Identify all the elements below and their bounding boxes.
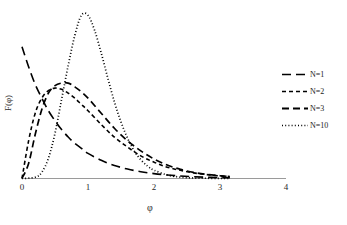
legend-label-n2: N=2	[310, 87, 324, 96]
curve-group	[22, 13, 230, 178]
x-tick-label-3: 3	[210, 182, 230, 192]
legend-swatch-n10	[282, 121, 308, 130]
curve-n1	[22, 47, 230, 178]
legend-label-n1: N=1	[310, 70, 324, 79]
y-axis-title: F(φ)	[3, 80, 13, 126]
legend-item-n10: N=10	[282, 117, 346, 134]
chart-legend: N=1 N=2 N=3 N=10	[282, 66, 346, 134]
x-tick-label-2: 2	[144, 182, 164, 192]
legend-label-n10: N=10	[310, 121, 328, 130]
legend-item-n1: N=1	[282, 66, 346, 83]
x-tick-label-4: 4	[276, 182, 296, 192]
legend-swatch-n3	[282, 104, 308, 113]
curve-n3	[22, 83, 230, 179]
legend-label-n3: N=3	[310, 104, 324, 113]
x-tick-label-0: 0	[12, 182, 32, 192]
x-tick-label-1: 1	[78, 182, 98, 192]
legend-item-n2: N=2	[282, 83, 346, 100]
legend-item-n3: N=3	[282, 100, 346, 117]
curve-n2	[22, 88, 230, 178]
legend-swatch-n2	[282, 87, 308, 96]
curve-n10	[22, 13, 230, 178]
legend-swatch-n1	[282, 70, 308, 79]
x-axis-title: φ	[0, 202, 300, 213]
chart-figure: 0 1 2 3 4 φ F(φ) N=1 N=2 N=3 N=1	[0, 0, 347, 225]
